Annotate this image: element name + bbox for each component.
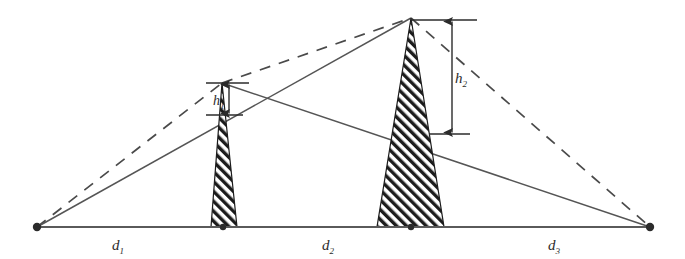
diffraction-diagram-root: h1 h2 d1 d2 d3 [0, 0, 685, 259]
d2-label-sub: 2 [330, 246, 335, 256]
dashed-ray-tx-to-peak1 [37, 83, 222, 227]
ground-baseline-group [33, 223, 654, 231]
h1-label-sub: 1 [220, 101, 225, 111]
obstacle-2-shape [377, 18, 444, 227]
transmitter-node [33, 223, 41, 231]
d1-label-sub: 1 [120, 246, 125, 256]
d1-label: d1 [112, 237, 124, 256]
receiver-node [646, 223, 654, 231]
d2-label: d2 [322, 237, 335, 256]
obstacle-2-base-node [408, 224, 414, 230]
d3-label: d3 [548, 237, 561, 256]
obstacle-2 [377, 18, 444, 227]
h2-label: h2 [455, 70, 468, 89]
figure-canvas: h1 h2 d1 d2 d3 [0, 0, 685, 259]
h2-label-sub: 2 [463, 79, 468, 89]
distance-label-group: d1 d2 d3 [112, 237, 561, 256]
obstacle-1-base-node [220, 224, 226, 230]
d3-label-sub: 3 [555, 246, 561, 256]
h1-dimension-group: h1 [206, 83, 249, 115]
h1-label-base: h [213, 93, 220, 108]
dashed-ray-peak1-to-peak2 [222, 18, 411, 83]
h2-label-base: h [455, 70, 463, 86]
solid-ray-group [37, 18, 650, 227]
dashed-ray-peak2-to-rx [411, 18, 650, 227]
